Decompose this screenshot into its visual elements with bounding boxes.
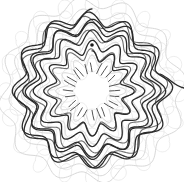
artwork-canvas [0,0,184,182]
spiral-rosette-svg [0,0,184,182]
terminal-dot [90,43,94,47]
terminal-dot-layer [90,43,94,47]
